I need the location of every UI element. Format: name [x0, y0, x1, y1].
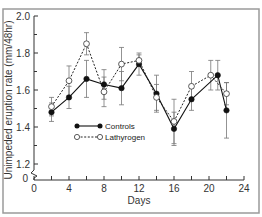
x-tick-label: 4	[66, 183, 72, 194]
data-point-lathyrogen	[66, 78, 72, 84]
data-point-lathyrogen	[154, 95, 160, 101]
chart-frame	[3, 9, 259, 213]
data-point-lathyrogen	[136, 58, 142, 64]
data-point-lathyrogen	[171, 119, 177, 125]
data-point-controls	[49, 110, 54, 115]
legend-marker-controls	[75, 124, 80, 129]
data-point-lathyrogen	[49, 104, 55, 110]
x-tick-label: 20	[203, 183, 215, 194]
y-tick-label: 2.0	[16, 11, 30, 22]
y-axis-title: Unimpeded eruption rate (mm/48hr)	[3, 21, 14, 180]
y-tick-label: 1.6	[16, 85, 30, 96]
y-tick-label: 1.4	[16, 122, 30, 133]
legend-marker-lathyrogen	[74, 134, 79, 139]
data-point-controls	[101, 82, 106, 87]
data-point-lathyrogen	[189, 83, 195, 89]
x-axis-title: Days	[128, 195, 151, 206]
data-point-lathyrogen	[84, 41, 90, 47]
data-point-controls	[189, 97, 194, 102]
data-point-controls	[84, 76, 89, 81]
y-tick-label: 1.2	[16, 159, 30, 170]
legend-marker-controls	[98, 124, 103, 129]
chart: 1.21.41.61.82.0004812162024 ControlsLath…	[0, 0, 262, 217]
legend-label-controls: Controls	[105, 122, 135, 131]
x-tick-label: 8	[101, 183, 107, 194]
data-point-lathyrogen	[101, 89, 107, 95]
x-tick-label: 12	[133, 183, 145, 194]
data-point-controls	[171, 126, 176, 131]
x-tick-label: 24	[238, 183, 250, 194]
data-point-controls	[215, 73, 220, 78]
data-point-controls	[119, 85, 124, 90]
data-point-controls	[224, 108, 229, 113]
data-point-lathyrogen	[224, 91, 230, 97]
data-point-lathyrogen	[208, 72, 214, 78]
x-tick-label: 16	[168, 183, 180, 194]
legend-marker-lathyrogen	[97, 134, 102, 139]
data-point-lathyrogen	[119, 61, 125, 67]
legend: ControlsLathyrogen	[74, 122, 145, 142]
data-point-controls	[66, 95, 71, 100]
y-origin-label: 0	[22, 173, 28, 184]
x-tick-label: 0	[31, 183, 37, 194]
y-tick-label: 1.8	[16, 48, 30, 59]
legend-label-lathyrogen: Lathyrogen	[105, 133, 145, 142]
